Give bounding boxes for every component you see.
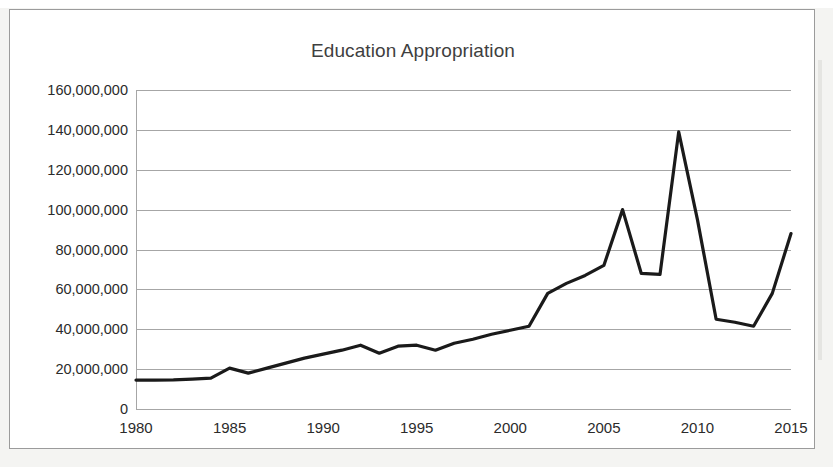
y-axis-tick-label: 160,000,000 — [16, 83, 128, 98]
chart-frame: Education Appropriation 020,000,00040,00… — [9, 9, 815, 449]
x-axis-tick-label: 1985 — [200, 420, 260, 435]
y-axis-tick-label: 140,000,000 — [16, 123, 128, 138]
x-axis-tick-label: 1995 — [387, 420, 447, 435]
x-axis-tick-label: 2000 — [480, 420, 540, 435]
x-axis-tick-label: 2005 — [574, 420, 634, 435]
y-axis-tick-label: 40,000,000 — [16, 322, 128, 337]
gridline — [136, 409, 791, 410]
page-background: Education Appropriation 020,000,00040,00… — [0, 0, 833, 467]
y-axis-tick-label: 80,000,000 — [16, 243, 128, 258]
chart-title: Education Appropriation — [10, 40, 816, 62]
y-axis-tick-label: 100,000,000 — [16, 203, 128, 218]
data-series-line — [136, 90, 791, 409]
y-axis-tick-labels: 020,000,00040,000,00060,000,00080,000,00… — [10, 90, 128, 410]
x-axis-tick-label: 1980 — [106, 420, 166, 435]
y-axis-tick-label: 0 — [16, 402, 128, 417]
x-axis-tick-label: 2010 — [667, 420, 727, 435]
page-top-band — [0, 0, 833, 8]
y-axis-tick-label: 20,000,000 — [16, 362, 128, 377]
scan-artifact-right — [818, 60, 822, 360]
x-axis-tick-label: 1990 — [293, 420, 353, 435]
plot-area — [136, 90, 791, 409]
y-axis-tick-label: 60,000,000 — [16, 282, 128, 297]
y-axis-tick-label: 120,000,000 — [16, 163, 128, 178]
x-axis-tick-labels: 19801985199019952000200520102015 — [136, 420, 791, 442]
x-axis-tick-label: 2015 — [761, 420, 821, 435]
